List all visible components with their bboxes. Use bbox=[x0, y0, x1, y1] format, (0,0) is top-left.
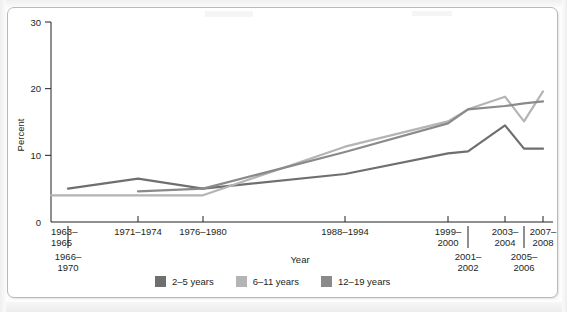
legend-label: 12–19 years bbox=[338, 276, 390, 287]
scanned-page: 0102030 1963–19651971–19741976–19801988–… bbox=[0, 0, 567, 312]
legend-entry: 12–19 years bbox=[321, 276, 390, 287]
legend-entry: 2–5 years bbox=[155, 276, 214, 287]
chart-canvas: 0102030 1963–19651971–19741976–19801988–… bbox=[0, 0, 567, 312]
legend-entry: 6–11 years bbox=[236, 276, 299, 287]
svg-text:1999–2000: 1999–2000 bbox=[435, 226, 462, 248]
svg-text:1988–1994: 1988–1994 bbox=[321, 226, 369, 237]
svg-text:0: 0 bbox=[36, 217, 41, 228]
axes: 0102030 bbox=[30, 17, 553, 249]
data-series bbox=[51, 91, 543, 195]
legend-label: 2–5 years bbox=[172, 276, 214, 287]
svg-text:30: 30 bbox=[30, 17, 41, 28]
svg-text:20: 20 bbox=[30, 83, 41, 94]
svg-text:1971–1974: 1971–1974 bbox=[114, 226, 162, 237]
svg-text:10: 10 bbox=[30, 150, 41, 161]
line-chart: 0102030 1963–19651971–19741976–19801988–… bbox=[0, 0, 567, 312]
chart-legend: 2–5 years6–11 years12–19 years bbox=[155, 276, 390, 287]
svg-text:1963–1965: 1963–1965 bbox=[51, 226, 78, 248]
svg-text:2003–2004: 2003–2004 bbox=[492, 226, 519, 248]
legend-swatch bbox=[321, 276, 332, 287]
legend-swatch bbox=[155, 276, 166, 287]
svg-text:2007–2008: 2007–2008 bbox=[530, 226, 557, 248]
legend-label: 6–11 years bbox=[253, 276, 299, 287]
svg-text:2005–2006: 2005–2006 bbox=[511, 251, 538, 273]
svg-text:1966–1970: 1966–1970 bbox=[55, 251, 82, 273]
legend-swatch bbox=[236, 276, 247, 287]
svg-text:Percent: Percent bbox=[15, 118, 26, 151]
svg-text:1976–1980: 1976–1980 bbox=[179, 226, 227, 237]
svg-text:Year: Year bbox=[290, 254, 309, 265]
svg-text:2001–2002: 2001–2002 bbox=[455, 251, 482, 273]
